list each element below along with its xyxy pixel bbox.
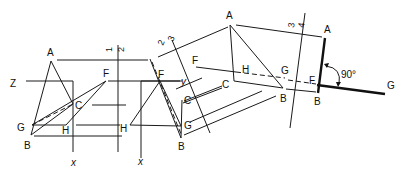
ref-label-x: x (70, 157, 77, 168)
view-1: A F C G H B Z x (10, 47, 180, 168)
point-label-c-3: C (222, 79, 229, 90)
arc-arrowhead-bottom (336, 82, 341, 87)
view-2: F C G H B x y (120, 27, 276, 167)
point-label-a-4: A (324, 24, 331, 35)
point-label-f: F (103, 68, 109, 79)
line-fg-true-length (317, 85, 385, 94)
point-label-h-2: H (120, 123, 127, 134)
point-label-a-3: A (226, 10, 233, 21)
fold-label-4: 4 (296, 22, 307, 28)
point-label-g: G (17, 122, 25, 133)
fold-label-1: 1 (104, 47, 114, 52)
edge-cb (181, 100, 182, 138)
right-angle-arc (326, 66, 339, 84)
projector-f-2 (176, 78, 202, 89)
point-label-g-3: G (281, 65, 289, 76)
ref-label-y: y (180, 76, 187, 87)
point-label-h: H (62, 125, 69, 136)
point-label-f-3: F (192, 55, 198, 66)
projector-a-2 (158, 27, 228, 57)
point-label-b: B (24, 140, 31, 151)
point-label-c-2: C (184, 95, 191, 106)
point-label-g-2: G (184, 120, 192, 131)
geometry-diagram: A F C G H B Z x 1 2 F C G H B (0, 0, 405, 172)
point-label-a: A (47, 47, 54, 58)
angle-label: 90° (341, 69, 356, 80)
view-4: 90° A F B G (309, 24, 395, 107)
edge-gf (32, 81, 106, 125)
edge-hg (130, 125, 181, 126)
point-label-h-3: H (242, 64, 249, 75)
point-label-f-4: F (309, 75, 315, 86)
projector-b-3 (286, 89, 316, 92)
edge-ab-3 (230, 25, 283, 88)
ref-label-x-2: x (137, 156, 144, 167)
ref-label-z: Z (10, 78, 16, 89)
hidden-edge-2 (152, 62, 181, 134)
fold-label-3: 3 (166, 34, 177, 42)
point-label-c: C (75, 100, 82, 111)
line-fh (196, 67, 236, 72)
fold-line-3-4: 3 4 (286, 13, 307, 128)
edge-hf (130, 81, 160, 125)
edge-ac (230, 25, 234, 81)
fold-label-2: 2 (116, 47, 126, 52)
diagram-canvas: A F C G H B Z x 1 2 F C G H B (0, 0, 405, 172)
point-label-b-3: B (280, 93, 287, 104)
arc-arrowhead-top (324, 63, 329, 68)
point-label-b-2: B (178, 141, 185, 152)
edge-cb-3 (234, 81, 283, 88)
point-label-b-4: B (314, 96, 321, 107)
point-label-g-4: G (387, 80, 395, 91)
point-label-f-2: F (158, 69, 164, 80)
projector-a-3 (236, 25, 322, 37)
